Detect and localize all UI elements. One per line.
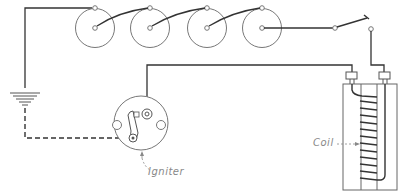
igniter-arrow-icon (140, 151, 144, 156)
coil-arrow-icon (355, 142, 360, 146)
dry-cell-2 (131, 6, 170, 48)
igniter-label: Igniter (148, 166, 184, 177)
dry-cell-1 (76, 6, 115, 48)
ground-wire (25, 8, 92, 88)
coil (343, 72, 397, 190)
dry-cell-3 (188, 6, 227, 48)
ground-icon (10, 93, 40, 105)
wiring-diagram: Coil Igniter (0, 0, 401, 194)
switch-to-coil-wire (371, 31, 384, 72)
switch-icon (333, 15, 374, 31)
igniter (113, 96, 169, 150)
igniter-to-coil-wire (147, 65, 352, 110)
cell-interconnects (97, 8, 260, 26)
coil-label: Coil (313, 137, 334, 148)
dry-cell-4 (243, 6, 282, 48)
